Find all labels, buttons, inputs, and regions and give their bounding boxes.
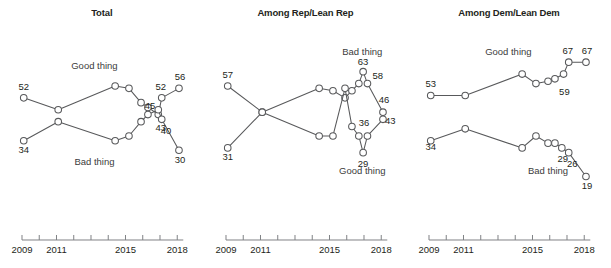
data-point — [462, 92, 469, 99]
data-point — [145, 111, 152, 118]
data-point — [552, 76, 559, 83]
data-point — [138, 118, 145, 125]
series-annotation-label: Bad thing — [528, 165, 568, 176]
axis-tick-label: 2009 — [419, 244, 440, 255]
data-point — [126, 133, 133, 140]
data-point — [176, 85, 183, 92]
data-point — [545, 78, 552, 85]
data-point — [348, 123, 355, 130]
point-value-label: 63 — [357, 56, 368, 67]
point-value-label: 57 — [222, 69, 233, 80]
axis-tick-label: 2018 — [574, 244, 595, 255]
point-value-label: 67 — [582, 45, 593, 56]
axis-tick-label: 2011 — [250, 244, 270, 255]
data-point — [55, 118, 62, 125]
data-point — [355, 133, 362, 140]
axis-tick-label: 2011 — [453, 244, 473, 255]
data-point — [126, 85, 133, 92]
data-point — [341, 85, 348, 92]
point-value-label: 59 — [559, 86, 570, 97]
panel-plot: 20092011201520183163584657294336Bad thin… — [204, 0, 408, 268]
data-point — [112, 83, 119, 90]
data-point — [533, 80, 540, 87]
series-annotation-label: Good thing — [339, 165, 385, 176]
data-point — [329, 87, 336, 94]
x-axis — [429, 235, 590, 240]
data-point — [566, 59, 573, 66]
panel-plot: 20092011201520185367675919342926Good thi… — [407, 0, 611, 268]
series-annotation-label: Bad thing — [342, 46, 382, 57]
x-axis — [22, 235, 183, 240]
data-point — [359, 68, 366, 75]
point-value-label: 52 — [18, 81, 29, 92]
data-point — [552, 140, 559, 147]
axis-tick-label: 2018 — [370, 244, 391, 255]
data-point — [138, 99, 145, 106]
data-point — [545, 140, 552, 147]
data-point — [359, 149, 366, 156]
data-point — [519, 71, 526, 78]
point-value-label: 45 — [145, 100, 156, 111]
axis-tick-label: 2015 — [522, 244, 543, 255]
point-value-label: 58 — [372, 70, 383, 81]
x-axis — [226, 235, 387, 240]
series-annotation-label: Good thing — [485, 46, 531, 57]
point-value-label: 67 — [563, 45, 574, 56]
data-point — [329, 133, 336, 140]
point-value-label: 46 — [378, 94, 389, 105]
point-value-label: 40 — [161, 125, 172, 136]
data-series: 19342926 — [426, 126, 593, 192]
data-point — [112, 137, 119, 144]
point-value-label: 36 — [358, 117, 369, 128]
chart-panel: Total20092011201520185245525634433040Goo… — [0, 0, 204, 268]
series-annotation-label: Good thing — [71, 60, 117, 71]
data-point — [364, 80, 371, 87]
data-point — [560, 71, 567, 78]
data-point — [462, 126, 469, 133]
axis-tick-label: 2015 — [115, 244, 136, 255]
axis-tick-label: 2009 — [215, 244, 236, 255]
point-value-label: 53 — [426, 78, 437, 89]
axis-tick-label: 2009 — [11, 244, 32, 255]
data-point — [55, 106, 62, 113]
data-point — [315, 133, 322, 140]
axis-tick-label: 2011 — [46, 244, 66, 255]
point-value-label: 34 — [426, 141, 437, 152]
data-point — [259, 109, 266, 116]
data-point — [158, 95, 165, 102]
data-point — [176, 147, 183, 154]
point-value-label: 56 — [175, 71, 186, 82]
point-value-label: 26 — [567, 158, 578, 169]
point-value-label: 31 — [222, 151, 233, 162]
data-point — [583, 59, 590, 66]
data-series: 31635846 — [222, 56, 389, 162]
data-point — [20, 95, 27, 102]
data-point — [348, 87, 355, 94]
axis-tick-label: 2015 — [319, 244, 340, 255]
data-point — [533, 133, 540, 140]
point-value-label: 19 — [582, 180, 593, 191]
point-value-label: 52 — [155, 81, 166, 92]
chart-panel: Among Dem/Lean Dem2009201120152018536767… — [407, 0, 611, 268]
data-point — [519, 145, 526, 152]
data-point — [364, 133, 371, 140]
data-point — [315, 85, 322, 92]
data-point — [559, 145, 566, 152]
data-point — [155, 106, 162, 113]
chart-figure: Total20092011201520185245525634433040Goo… — [0, 0, 611, 268]
axis-tick-label: 2018 — [167, 244, 188, 255]
data-point — [355, 80, 362, 87]
series-annotation-label: Bad thing — [74, 156, 114, 167]
panel-plot: 20092011201520185245525634433040Good thi… — [0, 0, 204, 268]
chart-panel: Among Rep/Lean Rep2009201120152018316358… — [204, 0, 408, 268]
point-value-label: 34 — [18, 144, 29, 155]
data-point — [224, 83, 231, 90]
data-point — [583, 173, 590, 180]
point-value-label: 30 — [175, 154, 186, 165]
point-value-label: 43 — [385, 115, 396, 126]
data-point — [428, 92, 435, 99]
